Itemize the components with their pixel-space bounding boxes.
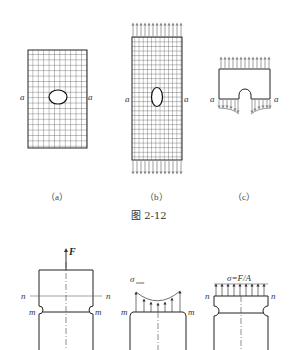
- notched-section-block: [219, 69, 270, 99]
- uniform-stress-arrows: [216, 285, 264, 296]
- stress-distribution-curve: [136, 291, 180, 301]
- nominal-stress-label: σ=F/A: [227, 273, 252, 283]
- caption-a: （a）: [46, 192, 68, 202]
- figure-2-12: a a （a）: [0, 0, 293, 350]
- section-n-left: n: [21, 291, 26, 301]
- section-label-c-left: a: [210, 94, 215, 104]
- stress-arrows-left-c: [219, 100, 238, 112]
- bottom-panel-notched-bar: F n n m m: [21, 246, 111, 350]
- panel-c: a a （c）: [210, 58, 279, 202]
- tension-arrows-bottom: [133, 161, 181, 173]
- caption-c: （c）: [233, 192, 255, 202]
- stress-curve-right: [251, 108, 271, 114]
- tension-arrows-top: [133, 24, 181, 36]
- stress-arrows-right-c: [252, 100, 270, 112]
- stress-curve-left: [219, 108, 239, 114]
- force-label: F: [68, 246, 76, 257]
- elongated-hole: [152, 88, 163, 107]
- bottom-panel-stress-concentration: σ max m m: [121, 274, 195, 350]
- panel-a: a a （a）: [20, 50, 93, 202]
- section-label-c-right: a: [274, 94, 279, 104]
- section-m-right: m: [188, 307, 195, 317]
- panel-b: a a （b）: [125, 24, 189, 202]
- section-m-left: m: [29, 307, 36, 317]
- caption-b: （b）: [145, 192, 168, 202]
- section-n-left: n: [205, 291, 210, 301]
- section-label-a-left: a: [20, 92, 25, 102]
- circular-hole: [49, 90, 67, 104]
- section-n-right: n: [106, 291, 111, 301]
- sigma-max-label: σ: [130, 274, 135, 284]
- figure-number: 图 2-12: [131, 210, 167, 221]
- sigma-max-subscript: max: [136, 280, 145, 285]
- section-label-a-right: a: [88, 92, 93, 102]
- section-m-left: m: [121, 307, 128, 317]
- section-m-right: m: [95, 307, 102, 317]
- tension-arrows-top-c: [221, 58, 269, 68]
- stress-arrows: [136, 292, 180, 312]
- section-label-b-left: a: [125, 94, 130, 104]
- section-n-right: n: [271, 291, 276, 301]
- section-label-b-right: a: [184, 94, 189, 104]
- bottom-panel-nominal-stress: σ=F/A n n: [205, 273, 276, 350]
